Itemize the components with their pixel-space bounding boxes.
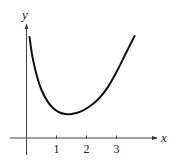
x-tick-label: 2 — [84, 142, 90, 156]
x-tick-label: 1 — [54, 142, 60, 156]
y-axis-label: y — [20, 7, 28, 22]
x-tick-label: 3 — [114, 142, 120, 156]
x-ticks: 123 — [54, 136, 120, 157]
chart: 123 x y — [0, 0, 179, 165]
x-axis-label: x — [160, 130, 167, 145]
data-curve — [30, 36, 135, 114]
